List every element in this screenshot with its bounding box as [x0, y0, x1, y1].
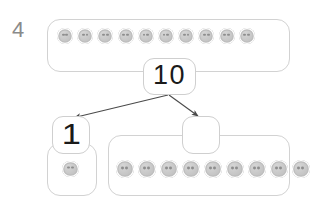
counter-token-hole-icon [223, 33, 226, 36]
counter-token-hole-icon [106, 33, 109, 36]
counter-token-hole-icon [187, 33, 190, 36]
counter-token-hole-icon [146, 33, 149, 36]
counter-token-icon [158, 28, 174, 44]
counter-token-icon [226, 160, 244, 178]
counter-token-icon [270, 160, 288, 178]
counter-token-hole-icon [147, 166, 150, 169]
counter-token-hole-icon [213, 166, 216, 169]
counter-token-hole-icon [67, 166, 70, 169]
arrow-to-part-one [75, 95, 169, 118]
counter-token-icon [219, 28, 235, 44]
counter-token-hole-icon [279, 166, 282, 169]
counter-token-hole-icon [126, 33, 129, 36]
counter-token-icon [138, 28, 154, 44]
bottom-left-group-tokens [62, 159, 82, 179]
counter-token-hole-icon [227, 33, 230, 36]
counter-token-hole-icon [102, 33, 105, 36]
counter-token-hole-icon [125, 166, 128, 169]
top-group-tokens [57, 26, 280, 46]
counter-token-hole-icon [301, 166, 304, 169]
counter-token-icon [116, 160, 134, 178]
counter-token-icon [182, 160, 200, 178]
counter-token-icon [178, 28, 194, 44]
counter-token-icon [198, 28, 214, 44]
counter-token-hole-icon [143, 166, 146, 169]
counter-token-icon [160, 160, 178, 178]
counter-token-hole-icon [203, 33, 206, 36]
counter-token-hole-icon [257, 166, 260, 169]
counter-token-hole-icon [82, 33, 85, 36]
total-card[interactable]: 10 [143, 58, 196, 95]
counter-token-hole-icon [207, 33, 210, 36]
counter-token-hole-icon [235, 166, 238, 169]
counter-token-icon [62, 161, 79, 178]
counter-token-hole-icon [275, 166, 278, 169]
counter-token-hole-icon [297, 166, 300, 169]
counter-token-icon [239, 28, 255, 44]
counter-token-hole-icon [166, 33, 169, 36]
counter-token-hole-icon [71, 166, 74, 169]
counter-token-hole-icon [122, 33, 125, 36]
problem-number: 4 [12, 19, 24, 41]
counter-token-hole-icon [62, 33, 65, 36]
part-one-card-value: 1 [61, 119, 80, 149]
part-one-card[interactable]: 1 [52, 116, 90, 154]
counter-token-hole-icon [183, 33, 186, 36]
counter-token-hole-icon [187, 166, 190, 169]
counter-token-icon [138, 160, 156, 178]
counter-token-hole-icon [165, 166, 168, 169]
bottom-right-group-tokens [116, 158, 282, 180]
counter-token-hole-icon [163, 33, 166, 36]
counter-token-hole-icon [121, 166, 124, 169]
counter-token-hole-icon [65, 33, 68, 36]
worksheet-page: 4 10 1 [0, 0, 315, 211]
arrow-to-part-two [169, 95, 198, 116]
counter-token-hole-icon [86, 33, 89, 36]
counter-token-icon [57, 28, 73, 44]
counter-token-icon [292, 160, 310, 178]
counter-token-icon [97, 28, 113, 44]
counter-token-hole-icon [253, 166, 256, 169]
counter-token-hole-icon [209, 166, 212, 169]
counter-token-icon [248, 160, 266, 178]
counter-token-hole-icon [169, 166, 172, 169]
part-two-card[interactable] [182, 116, 220, 154]
counter-token-hole-icon [143, 33, 146, 36]
counter-token-icon [204, 160, 222, 178]
total-card-value: 10 [153, 62, 186, 89]
counter-token-hole-icon [231, 166, 234, 169]
counter-token-icon [118, 28, 134, 44]
counter-token-hole-icon [247, 33, 250, 36]
counter-token-icon [77, 28, 93, 44]
counter-token-hole-icon [243, 33, 246, 36]
counter-token-hole-icon [191, 166, 194, 169]
